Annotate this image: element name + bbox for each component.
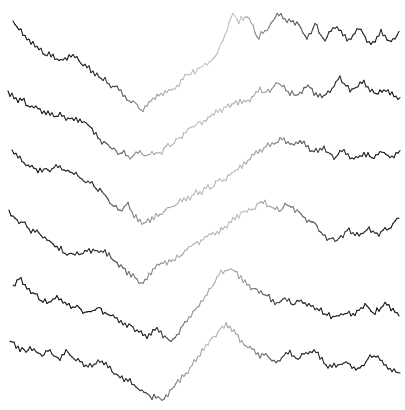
chart-canvas — [0, 0, 405, 410]
line-chart — [0, 0, 405, 410]
page — [0, 0, 405, 410]
